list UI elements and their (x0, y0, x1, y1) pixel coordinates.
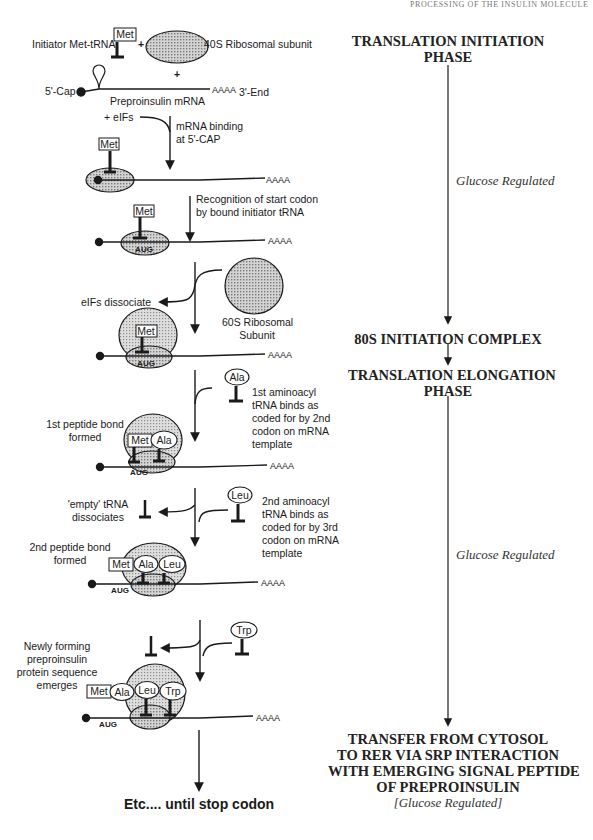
plus-sign-1: + (138, 38, 144, 51)
initiator-trna-label: Initiator Met-tRNA (32, 38, 115, 51)
newly-forming-2: preproinsulin (12, 653, 102, 666)
svg-text:AUG: AUG (99, 720, 117, 729)
glucose-regulated-1: Glucose Regulated (456, 173, 555, 189)
transfer-2: TO RER VIA SRP INTERACTION (328, 747, 568, 763)
polya-7: AAAA (256, 712, 280, 725)
second-aminoacyl-4: codon on mRNA (262, 534, 339, 547)
ribosome-60s-icon (225, 258, 283, 314)
mrna-label: Preproinsulin mRNA (110, 95, 205, 108)
svg-text:Leu: Leu (231, 489, 249, 501)
polya-2: AAAA (266, 174, 290, 187)
svg-text:Met: Met (137, 325, 155, 337)
first-peptide-2: formed (40, 431, 130, 444)
svg-text:Leu: Leu (138, 684, 156, 696)
subunit-60s-label-1: 60S Ribosomal (222, 316, 292, 329)
polya-5: AAAA (270, 460, 294, 473)
eifs-dissociate-label: eIFs dissociate (81, 296, 151, 309)
svg-text:Ala: Ala (114, 686, 129, 698)
phase-initiation-1: TRANSLATION INITIATION (348, 33, 548, 49)
svg-text:Trp: Trp (236, 624, 252, 636)
first-peptide-1: 1st peptide bond (40, 418, 130, 431)
transfer-3: WITH EMERGING SIGNAL PEPTIDE (328, 763, 568, 779)
newly-forming-1: Newly forming (12, 640, 102, 653)
svg-text:Met: Met (100, 138, 118, 150)
phase-elongation-2: PHASE (348, 383, 548, 399)
polya-4: AAAA (268, 349, 292, 362)
first-aminoacyl-3: coded for by 2nd (252, 412, 330, 425)
transfer-4: OF PREPROINSULIN (328, 779, 568, 795)
second-aminoacyl-5: template (262, 547, 302, 560)
first-aminoacyl-1: 1st aminoacyl (252, 386, 316, 399)
svg-text:Leu: Leu (163, 558, 181, 570)
step-recognition-2: by bound initiator tRNA (196, 206, 304, 219)
empty-trna-1: 'empty' tRNA (62, 498, 134, 511)
svg-text:Trp: Trp (165, 685, 181, 697)
step-mrna-binding-2: at 5'-CAP (176, 133, 221, 146)
step-mrna-binding-1: mRNA binding (176, 120, 243, 133)
end-label: 3'-End (239, 86, 269, 99)
second-peptide-2: formed (22, 554, 118, 567)
second-aminoacyl-1: 2nd aminoacyl (262, 495, 330, 508)
subunit-60s-label-2: Subunit (222, 329, 292, 342)
initiation-complex: 80S INITIATION COMPLEX (348, 331, 548, 347)
final-step-label: Etc.... until stop codon (124, 796, 274, 812)
eifs-add-label: + eIFs (104, 111, 133, 124)
second-aminoacyl-3: coded for by 3rd (262, 521, 338, 534)
cap-label: 5'-Cap (45, 85, 76, 98)
aa-met-1: Met (116, 28, 134, 40)
second-aminoacyl-2: tRNA binds as (262, 508, 329, 521)
empty-trna-2: dissociates (62, 511, 134, 524)
second-peptide-1: 2nd peptide bond (22, 541, 118, 554)
svg-text:AUG: AUG (130, 468, 148, 477)
ribosome-40s-icon (146, 31, 208, 63)
phase-elongation-1: TRANSLATION ELONGATION (348, 367, 548, 383)
newly-forming-4: emerges (12, 679, 102, 692)
svg-text:Ala: Ala (138, 558, 153, 570)
svg-text:Met: Met (131, 434, 149, 446)
svg-text:AUG: AUG (137, 359, 155, 368)
step-recognition-1: Recognition of start codon (196, 193, 318, 206)
svg-text:Ala: Ala (156, 434, 171, 446)
svg-text:Ala: Ala (229, 371, 244, 383)
first-aminoacyl-2: tRNA binds as (252, 399, 319, 412)
polya-1: AAAA (212, 84, 236, 97)
subunit-40s-label: 40S Ribosomal subunit (204, 38, 312, 51)
svg-text:Met: Met (135, 205, 153, 217)
plus-sign-2: + (174, 68, 180, 81)
phase-initiation-2: PHASE (348, 49, 548, 65)
mrna-strand-icon (77, 65, 210, 96)
polya-6: AAAA (261, 577, 285, 590)
first-aminoacyl-4: codon on mRNA (252, 425, 329, 438)
newly-forming-3: protein sequence (12, 666, 102, 679)
first-aminoacyl-5: template (252, 438, 292, 451)
svg-text:AUG: AUG (111, 586, 129, 595)
glucose-regulated-2: Glucose Regulated (456, 547, 555, 563)
transfer-1: TRANSFER FROM CYTOSOL (328, 731, 568, 747)
glucose-regulated-3: [Glucose Regulated] (392, 795, 504, 811)
svg-text:AUG: AUG (135, 245, 153, 254)
polya-3: AAAA (268, 235, 292, 248)
